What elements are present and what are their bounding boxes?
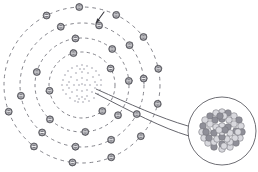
nucleus-dot bbox=[76, 65, 78, 67]
nucleus-dot bbox=[91, 67, 93, 69]
nucleon-proton bbox=[235, 129, 242, 136]
nucleus-dot bbox=[70, 76, 72, 78]
electron bbox=[39, 129, 46, 136]
nucleon-proton bbox=[221, 143, 228, 150]
nucleon-neutron bbox=[217, 113, 224, 120]
electron bbox=[140, 75, 147, 82]
nucleus-dot bbox=[64, 74, 66, 76]
nucleus-dot bbox=[81, 83, 83, 85]
nucleus-dot bbox=[100, 79, 102, 81]
electron bbox=[33, 69, 40, 76]
electron bbox=[30, 143, 37, 150]
nucleus-dot bbox=[86, 79, 88, 81]
nucleus-dot bbox=[88, 100, 90, 102]
electron bbox=[140, 33, 147, 40]
nucleus-dot bbox=[61, 84, 63, 86]
nucleus-dot bbox=[87, 72, 89, 74]
nucleus-dot bbox=[81, 96, 83, 98]
nucleon-proton bbox=[238, 123, 245, 130]
nucleus-dot-cloud bbox=[61, 64, 102, 103]
nucleus-dot bbox=[86, 65, 88, 67]
nucleus-dot bbox=[95, 70, 97, 72]
electron bbox=[72, 143, 79, 150]
nucleus-dot bbox=[79, 68, 81, 70]
nucleus-dot bbox=[65, 93, 67, 95]
nucleus-dot bbox=[71, 91, 73, 93]
nucleus-dot bbox=[93, 97, 95, 99]
nucleus-dot bbox=[73, 84, 75, 86]
electron bbox=[17, 92, 24, 99]
nucleus-dot bbox=[86, 89, 88, 91]
electron bbox=[99, 108, 106, 115]
nucleus-dot bbox=[94, 81, 96, 83]
nucleus-dot bbox=[62, 79, 64, 81]
nucleon-neutron bbox=[200, 123, 207, 130]
nucleus-dot bbox=[81, 90, 83, 92]
nucleus-dot bbox=[84, 84, 86, 86]
nucleon-neutron bbox=[203, 129, 210, 136]
nucleus-dot bbox=[68, 81, 70, 83]
nucleus-dot bbox=[66, 84, 68, 86]
nucleus-dot bbox=[86, 95, 88, 97]
electron bbox=[115, 112, 122, 119]
electron bbox=[154, 100, 161, 107]
electron bbox=[70, 49, 77, 56]
electron bbox=[125, 77, 132, 84]
electron bbox=[113, 11, 120, 18]
nucleus-dot bbox=[62, 89, 64, 91]
nucleon-proton bbox=[216, 127, 223, 134]
electron bbox=[126, 42, 133, 49]
atomic-model-figure bbox=[0, 0, 258, 172]
electron bbox=[43, 12, 50, 19]
nucleus-dot bbox=[76, 95, 78, 97]
electron bbox=[57, 23, 64, 30]
nucleus-dot bbox=[74, 100, 76, 102]
electron bbox=[155, 65, 162, 72]
nucleus-dot bbox=[92, 76, 94, 78]
electron bbox=[76, 3, 83, 10]
nucleus-dot bbox=[94, 87, 96, 89]
nucleus-dot bbox=[71, 67, 73, 69]
electron bbox=[82, 128, 89, 135]
nucleus-dot bbox=[76, 89, 78, 91]
connector-group bbox=[95, 89, 189, 136]
nucleus-dot bbox=[96, 84, 98, 86]
nucleus-dot bbox=[89, 84, 91, 86]
nucleus-dot bbox=[76, 79, 78, 81]
electron bbox=[72, 34, 79, 41]
electron bbox=[46, 87, 53, 94]
nucleus-dot bbox=[100, 84, 102, 86]
nucleus-dot bbox=[78, 98, 80, 100]
nucleus-dot bbox=[67, 70, 69, 72]
nucleon-neutron bbox=[222, 127, 229, 134]
nucleus-dot bbox=[69, 97, 71, 99]
electron bbox=[107, 65, 114, 72]
electron bbox=[5, 108, 12, 115]
nucleus-dot bbox=[98, 74, 100, 76]
electron bbox=[133, 111, 140, 118]
electron bbox=[108, 154, 115, 161]
nucleus-dot bbox=[83, 68, 85, 70]
nucleus-dot bbox=[81, 77, 83, 79]
nucleus-dot bbox=[75, 72, 77, 74]
electron bbox=[109, 45, 116, 52]
electron-pointer-arrow bbox=[96, 12, 104, 23]
nucleon-proton bbox=[207, 121, 214, 128]
nucleon-proton bbox=[231, 121, 238, 128]
nucleus-dot bbox=[77, 101, 79, 103]
nucleus-dot bbox=[78, 84, 80, 86]
magnified-nucleus-inset bbox=[188, 97, 256, 165]
nucleus-dot bbox=[82, 101, 84, 103]
atom-diagram-canvas bbox=[0, 0, 258, 172]
nucleus-dot bbox=[84, 98, 86, 100]
connector-line-upper bbox=[96, 89, 188, 126]
nucleus-dot bbox=[81, 71, 83, 73]
electron bbox=[69, 159, 76, 166]
nucleus-dot bbox=[81, 64, 83, 66]
nucleus-dot bbox=[91, 91, 93, 93]
nucleus-dot bbox=[68, 87, 70, 89]
electron bbox=[46, 116, 53, 123]
electron bbox=[108, 136, 115, 143]
electron bbox=[137, 133, 144, 140]
